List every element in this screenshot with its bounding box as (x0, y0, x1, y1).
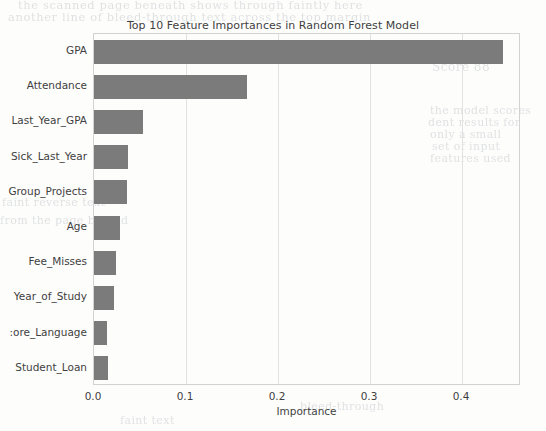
bar-row (94, 69, 519, 104)
bar-row (94, 316, 519, 351)
y-tick-label: Age (67, 209, 87, 244)
x-tick-label: 0.3 (361, 390, 378, 402)
y-tick-label: Group_Projects (8, 174, 87, 209)
bar-chart-figure: Top 10 Feature Importances in Random For… (0, 0, 546, 431)
bar-row (94, 351, 519, 386)
chart-title: Top 10 Feature Importances in Random For… (0, 19, 546, 32)
bar-row (94, 175, 519, 210)
y-tick-label: GPA (66, 33, 87, 68)
bar-row (94, 280, 519, 315)
y-tick-label: :ore_Language (9, 315, 87, 350)
y-tick-label: Fee_Misses (29, 244, 87, 279)
bar-student-loan[interactable] (94, 356, 108, 380)
bar-age[interactable] (94, 216, 120, 240)
x-axis-title: Importance (93, 405, 520, 417)
bar-attendance[interactable] (94, 75, 247, 99)
bar-gpa[interactable] (94, 40, 503, 64)
x-tick-label: 0.4 (453, 390, 470, 402)
plot-area (93, 33, 520, 385)
bar-row (94, 210, 519, 245)
bar-sick-last-year[interactable] (94, 145, 128, 169)
y-axis-tick-labels: GPAAttendanceLast_Year_GPASick_Last_Year… (0, 33, 87, 385)
y-tick-label: Sick_Last_Year (11, 139, 87, 174)
bar-last-year-gpa[interactable] (94, 110, 143, 134)
bar-row (94, 245, 519, 280)
bar-fee-misses[interactable] (94, 251, 116, 275)
bar-group-projects[interactable] (94, 180, 127, 204)
y-tick-label: Student_Loan (15, 350, 87, 385)
bar-year-of-study[interactable] (94, 286, 114, 310)
bar-ore-language[interactable] (94, 321, 107, 345)
x-tick-label: 0.1 (177, 390, 194, 402)
y-tick-label: Year_of_Study (14, 279, 87, 314)
bar-row (94, 104, 519, 139)
y-tick-label: Attendance (27, 68, 87, 103)
bar-row (94, 34, 519, 69)
bar-row (94, 140, 519, 175)
y-tick-label: Last_Year_GPA (11, 103, 87, 138)
x-tick-label: 0.2 (269, 390, 286, 402)
x-tick-label: 0.0 (85, 390, 102, 402)
